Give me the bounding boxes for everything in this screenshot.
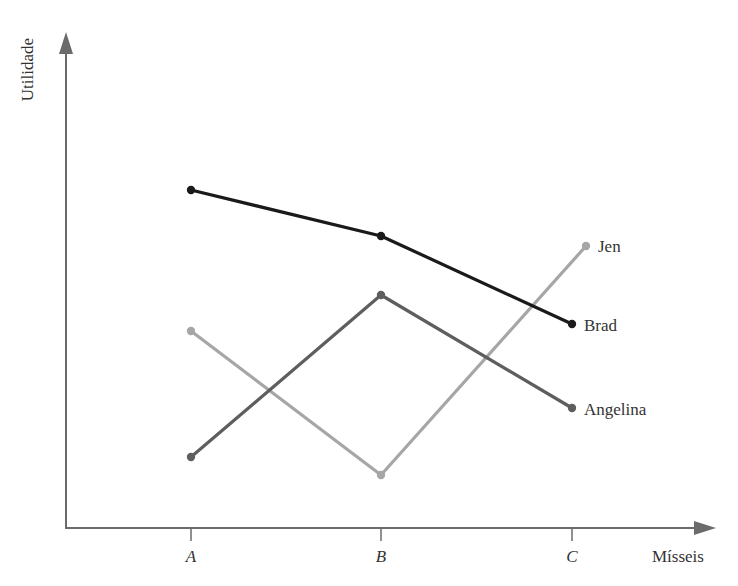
series-label-brad: Brad (584, 316, 618, 335)
data-point-brad (568, 320, 576, 328)
labels: BradAngelinaJen (584, 237, 647, 419)
x-tick-label: A (185, 547, 197, 566)
series-line-brad (191, 190, 572, 324)
series-label-angelina: Angelina (584, 400, 647, 419)
data-point-jen (187, 327, 195, 335)
series-group (187, 186, 590, 479)
data-point-angelina (187, 453, 195, 461)
series-label-jen: Jen (598, 237, 621, 256)
utility-chart: ABCMísseisUtilidade BradAngelinaJen (0, 0, 738, 586)
x-axis-arrow-icon (694, 521, 716, 535)
data-point-brad (187, 186, 195, 194)
x-tick-label: C (566, 547, 578, 566)
data-point-jen (377, 471, 385, 479)
data-point-angelina (377, 291, 385, 299)
axes: ABCMísseisUtilidade (18, 32, 716, 566)
data-point-jen (582, 242, 590, 250)
x-tick-label: B (376, 547, 387, 566)
x-axis-label: Mísseis (652, 547, 704, 566)
y-axis-arrow-icon (59, 32, 73, 54)
series-line-jen (191, 246, 586, 475)
data-point-brad (377, 232, 385, 240)
data-point-angelina (568, 404, 576, 412)
y-axis-label: Utilidade (18, 38, 37, 101)
